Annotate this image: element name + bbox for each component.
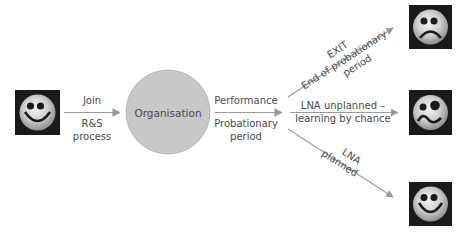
exit-sad-face-icon bbox=[409, 5, 452, 49]
planned-label-group: LNA planned bbox=[320, 137, 366, 178]
organisation-label: Organisation bbox=[134, 107, 201, 119]
probationary-label: Probationary bbox=[214, 118, 278, 129]
rs-label: R&S bbox=[81, 118, 102, 129]
join-label: Join bbox=[82, 95, 101, 106]
performance-label: Performance bbox=[214, 95, 277, 106]
process-label: process bbox=[73, 131, 111, 142]
period-label: period bbox=[230, 131, 262, 142]
employee-happy-face-icon bbox=[15, 90, 60, 135]
unplanned-confused-face-icon bbox=[409, 90, 452, 135]
learning-by-chance-label: learning by chance bbox=[295, 113, 390, 124]
planned-happy-face-icon bbox=[409, 182, 452, 226]
diagram-canvas: Join R&S process Organisation Performanc… bbox=[0, 0, 467, 237]
lna-unplanned-label: LNA unplanned – bbox=[301, 100, 385, 111]
end-of-probationary-label: End of probationary bbox=[299, 28, 388, 91]
exit-label-group: EXIT End of probationary period bbox=[293, 18, 395, 101]
